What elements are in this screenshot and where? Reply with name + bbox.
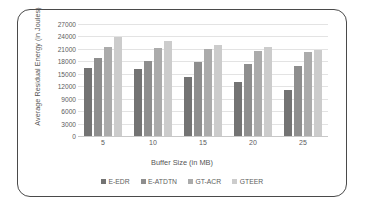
bar-e-atdtn-20 <box>244 64 252 136</box>
bar-e-edr-20 <box>234 82 242 136</box>
bar-gt-acr-25 <box>304 52 312 136</box>
bar-gt-acr-10 <box>154 48 162 136</box>
bar-gt-acr-5 <box>104 47 112 136</box>
legend-label: GTEER <box>240 178 263 185</box>
bar-group <box>278 24 328 136</box>
plot-area <box>78 24 328 136</box>
legend-swatch-icon <box>188 179 193 184</box>
legend-item-gteer[interactable]: GTEER <box>232 178 263 185</box>
legend-swatch-icon <box>101 179 106 184</box>
bar-e-atdtn-25 <box>294 66 302 136</box>
bar-gteer-10 <box>164 41 172 136</box>
y-axis-tick-label: 27000 <box>58 21 76 28</box>
bar-gteer-5 <box>114 37 122 136</box>
bar-e-edr-15 <box>184 77 192 136</box>
x-axis-tick-labels: 510152025 <box>78 139 328 146</box>
y-axis-tick-label: 12000 <box>58 83 76 90</box>
gridline <box>78 136 328 137</box>
legend-label: E-EDR <box>108 178 129 185</box>
y-axis-tick-label: 3000 <box>61 120 76 127</box>
legend-swatch-icon <box>232 179 237 184</box>
y-axis-tick-label: 0 <box>72 133 76 140</box>
x-axis-title: Buffer Size (in MB) <box>18 158 346 167</box>
bar-group <box>228 24 278 136</box>
bar-gt-acr-20 <box>254 51 262 136</box>
bar-groups <box>78 24 328 136</box>
bar-gt-acr-15 <box>204 49 212 136</box>
bar-group <box>178 24 228 136</box>
chart-figure: Average Residual Energy (in Joules) 0300… <box>17 9 347 197</box>
legend-item-e-edr[interactable]: E-EDR <box>101 178 130 185</box>
bar-e-edr-10 <box>134 69 142 136</box>
bar-e-atdtn-10 <box>144 61 152 136</box>
x-axis-tick-label: 20 <box>228 139 278 146</box>
x-axis-tick-label: 25 <box>278 139 328 146</box>
chart-legend: E-EDRE-ATDTNGT-ACRGTEER <box>18 178 346 185</box>
y-axis-tick-label: 21000 <box>58 45 76 52</box>
bar-e-atdtn-15 <box>194 62 202 136</box>
x-axis-tick-label: 15 <box>178 139 228 146</box>
legend-item-e-atdtn[interactable]: E-ATDTN <box>141 178 177 185</box>
y-axis-tick-label: 15000 <box>58 70 76 77</box>
bar-e-edr-25 <box>284 90 292 136</box>
legend-swatch-icon <box>141 179 146 184</box>
y-axis-title: Average Residual Energy (in Joules) <box>33 3 42 131</box>
y-axis-tick-label: 9000 <box>61 95 76 102</box>
legend-label: GT-ACR <box>196 178 222 185</box>
y-axis-tick-label: 6000 <box>61 108 76 115</box>
bar-group <box>78 24 128 136</box>
bar-gteer-25 <box>314 50 322 136</box>
bar-e-atdtn-5 <box>94 58 102 136</box>
legend-item-gt-acr[interactable]: GT-ACR <box>188 178 221 185</box>
x-axis-tick-label: 5 <box>78 139 128 146</box>
bar-group <box>128 24 178 136</box>
bar-e-edr-5 <box>84 68 92 136</box>
y-axis-tick-labels: 0300060009000120001500018000210002400027… <box>42 24 76 136</box>
bar-gteer-20 <box>264 47 272 136</box>
bar-gteer-15 <box>214 45 222 136</box>
y-axis-tick-label: 24000 <box>58 33 76 40</box>
y-axis-tick-label: 18000 <box>58 58 76 65</box>
legend-label: E-ATDTN <box>148 178 177 185</box>
x-axis-tick-label: 10 <box>128 139 178 146</box>
